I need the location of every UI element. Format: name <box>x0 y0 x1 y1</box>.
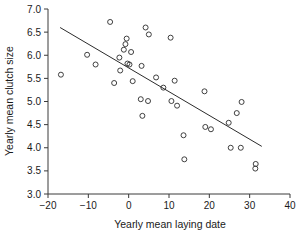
data-point <box>168 35 173 40</box>
x-tick-label: −20 <box>40 200 57 211</box>
data-point <box>234 111 239 116</box>
data-point <box>108 19 113 24</box>
x-tick-label: −10 <box>80 200 97 211</box>
data-point <box>130 79 135 84</box>
data-points-group <box>58 19 258 171</box>
data-point <box>129 50 134 55</box>
data-point <box>140 113 145 118</box>
chart-canvas: −20−10010203040 3.03.54.04.55.05.56.06.5… <box>0 0 301 234</box>
data-point <box>121 47 126 52</box>
data-point <box>117 55 122 60</box>
y-axis-title: Yearly mean clutch size <box>3 46 15 156</box>
data-point <box>123 42 128 47</box>
data-point <box>202 89 207 94</box>
data-point <box>175 103 180 108</box>
data-point <box>93 62 98 67</box>
data-point <box>239 99 244 104</box>
y-tick-label: 3.0 <box>27 189 41 200</box>
data-point <box>112 81 117 86</box>
data-point <box>169 99 174 104</box>
y-tick-label: 5.0 <box>27 96 41 107</box>
data-point <box>143 25 148 30</box>
x-tick-label: 30 <box>244 200 256 211</box>
data-point <box>58 72 63 77</box>
x-tick-label: 20 <box>204 200 216 211</box>
y-tick-label: 6.0 <box>27 50 41 61</box>
y-tick-label: 3.5 <box>27 165 41 176</box>
data-point <box>139 63 144 68</box>
x-axis-title: Yearly mean laying date <box>114 218 226 230</box>
data-point <box>228 145 233 150</box>
data-point <box>238 145 243 150</box>
data-point <box>172 78 177 83</box>
regression-line-group <box>60 28 262 147</box>
y-axis-ticks: 3.03.54.04.55.05.56.06.57.0 <box>27 4 48 200</box>
data-point <box>146 99 151 104</box>
data-point <box>208 127 213 132</box>
y-tick-label: 5.5 <box>27 73 41 84</box>
data-point <box>138 97 143 102</box>
y-tick-label: 4.5 <box>27 119 41 130</box>
y-tick-label: 7.0 <box>27 4 41 15</box>
regression-line <box>60 28 262 147</box>
x-tick-label: 10 <box>163 200 175 211</box>
x-tick-label: 0 <box>126 200 132 211</box>
scatter-plot-figure: −20−10010203040 3.03.54.04.55.05.56.06.5… <box>0 0 301 234</box>
data-point <box>203 124 208 129</box>
data-point <box>154 75 159 80</box>
data-point <box>146 32 151 37</box>
data-point <box>118 68 123 73</box>
data-point <box>181 133 186 138</box>
x-axis-ticks: −20−10010203040 <box>40 194 296 211</box>
data-point <box>226 120 231 125</box>
data-point <box>85 52 90 57</box>
x-tick-label: 40 <box>284 200 296 211</box>
y-tick-label: 4.0 <box>27 142 41 153</box>
data-point <box>124 36 129 41</box>
data-point <box>182 157 187 162</box>
y-tick-label: 6.5 <box>27 27 41 38</box>
